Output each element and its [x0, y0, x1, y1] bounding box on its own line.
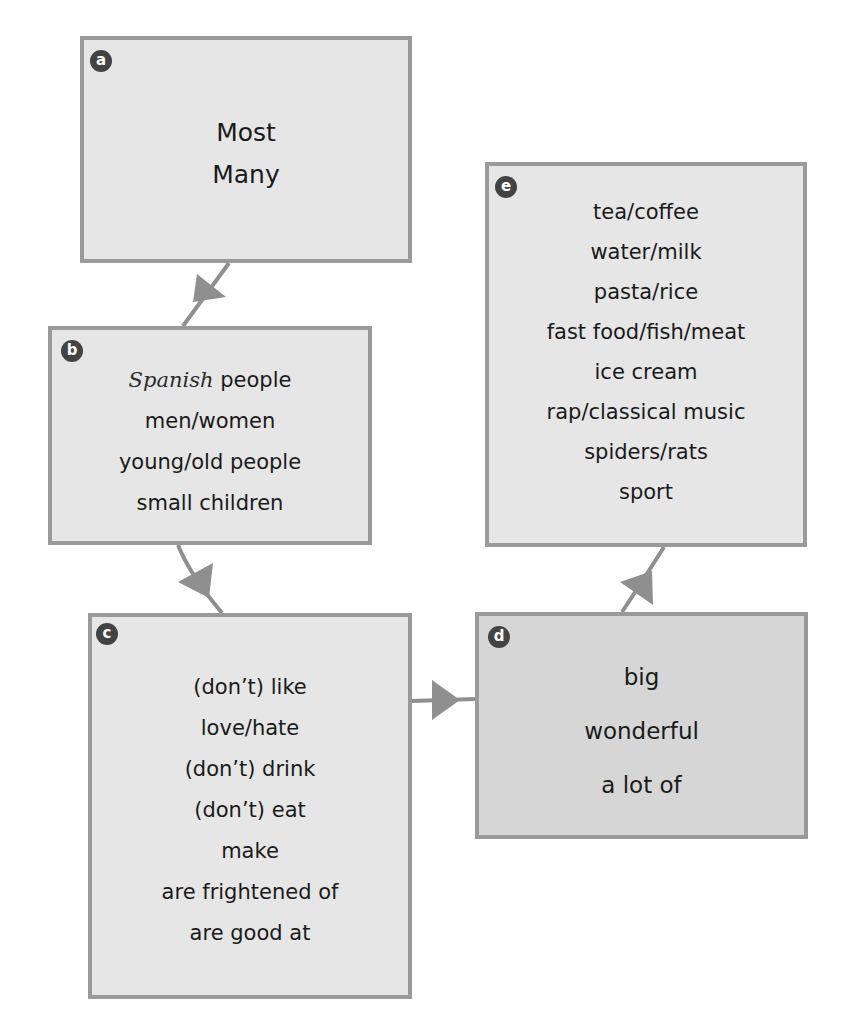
box-b-line: young/old people: [52, 442, 368, 483]
box-d-line: big: [479, 650, 804, 704]
arrowhead-b-c-icon: [178, 563, 213, 598]
box-c-line: are good at: [92, 913, 408, 954]
arrowhead-c-d-icon: [432, 680, 460, 720]
box-e: e tea/coffee water/milk pasta/rice fast …: [485, 162, 807, 547]
box-e-line: spiders/rats: [489, 432, 803, 472]
badge-d: d: [488, 626, 510, 648]
badge-c: c: [96, 623, 118, 645]
box-c-line: make: [92, 831, 408, 872]
box-b: b Spanish people men/women young/old peo…: [48, 326, 372, 545]
arrowhead-a-b-icon: [193, 274, 226, 302]
box-b-line: Spanish people: [52, 360, 368, 401]
box-c-line: (don’t) eat: [92, 790, 408, 831]
box-b-line: small children: [52, 483, 368, 524]
box-a-line: Many: [84, 154, 408, 196]
box-e-line: sport: [489, 472, 803, 512]
box-a: a Most Many: [80, 36, 412, 263]
box-c-line: (don’t) drink: [92, 749, 408, 790]
box-d-line: a lot of: [479, 758, 804, 812]
box-c-line: (don’t) like: [92, 667, 408, 708]
handwritten-word: Spanish: [129, 368, 214, 392]
box-a-line: Most: [84, 112, 408, 154]
box-e-line: ice cream: [489, 352, 803, 392]
box-c: c (don’t) like love/hate (don’t) drink (…: [88, 613, 412, 999]
box-c-line: are frightened of: [92, 872, 408, 913]
box-c-line: love/hate: [92, 708, 408, 749]
box-e-line: rap/classical music: [489, 392, 803, 432]
badge-a: a: [90, 50, 112, 72]
arrowhead-d-e-icon: [620, 571, 653, 605]
box-e-line: tea/coffee: [489, 192, 803, 232]
box-e-line: water/milk: [489, 232, 803, 272]
box-b-line: men/women: [52, 401, 368, 442]
box-d: d big wonderful a lot of: [475, 612, 808, 839]
box-d-line: wonderful: [479, 704, 804, 758]
box-e-line: pasta/rice: [489, 272, 803, 312]
badge-b: b: [61, 340, 83, 362]
box-e-line: fast food/fish/meat: [489, 312, 803, 352]
